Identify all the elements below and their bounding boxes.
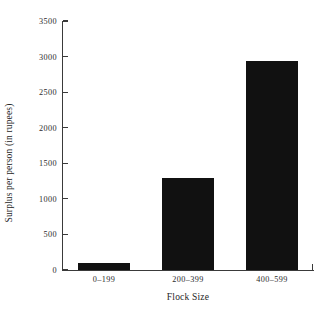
y-tick-label: 2000 — [39, 123, 57, 132]
y-tick-mark — [63, 269, 68, 270]
y-tick-mark — [63, 234, 68, 235]
y-tick-label: 500 — [44, 230, 57, 239]
y-tick-label: 3500 — [39, 17, 57, 26]
x-tick-label: 200–399 — [146, 275, 230, 284]
y-tick-mark — [63, 92, 68, 93]
y-tick-label: 0 — [53, 266, 58, 275]
y-tick-mark — [63, 198, 68, 199]
y-tick-label: 3000 — [39, 52, 57, 61]
bar-chart: Surplus per person (in rupees) 050010001… — [0, 0, 336, 314]
bar — [246, 61, 298, 270]
y-tick-label: 2500 — [39, 88, 57, 97]
x-tick-label: 400–599 — [230, 275, 314, 284]
plot-area: 0500100015002000250030003500 0–199200–39… — [62, 21, 314, 271]
x-axis-title: Flock Size — [62, 292, 314, 302]
y-axis-title-text: Surplus per person (in rupees) — [4, 104, 14, 223]
bar — [78, 263, 130, 270]
y-axis-title: Surplus per person (in rupees) — [0, 0, 22, 314]
y-tick-label: 1500 — [39, 159, 57, 168]
bar — [162, 178, 214, 270]
x-tick-label: 0–199 — [62, 275, 146, 284]
y-tick-mark — [63, 127, 68, 128]
x-axis-line — [62, 270, 314, 271]
x-axis-right-cap — [312, 264, 313, 271]
y-tick-mark — [63, 20, 68, 21]
y-tick-label: 1000 — [39, 194, 57, 203]
y-tick-mark — [63, 56, 68, 57]
y-tick-mark — [63, 163, 68, 164]
